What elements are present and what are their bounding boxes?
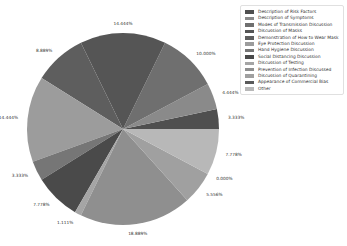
legend-swatch bbox=[245, 55, 254, 59]
legend-swatch bbox=[245, 23, 254, 27]
legend-swatch bbox=[245, 36, 254, 40]
slice-percentage-label: 10.000% bbox=[196, 51, 215, 56]
legend-swatch bbox=[245, 62, 254, 66]
legend-swatch bbox=[245, 87, 254, 91]
legend-item: Other bbox=[245, 86, 339, 92]
slice-percentage-label: 7.778% bbox=[225, 152, 241, 157]
slice-percentage-label: 5.556% bbox=[206, 192, 222, 197]
chart-legend: Description of Risk FactorsDescription o… bbox=[240, 5, 344, 95]
legend-swatch bbox=[245, 68, 254, 72]
legend-swatch bbox=[245, 10, 254, 14]
slice-percentage-label: 14.444% bbox=[0, 115, 18, 120]
slice-percentage-label: 8.889% bbox=[36, 48, 52, 53]
slice-percentage-label: 3.333% bbox=[12, 173, 28, 178]
slice-percentage-label: 3.333% bbox=[228, 115, 244, 120]
legend-swatch bbox=[245, 49, 254, 53]
slice-percentage-label: 7.778% bbox=[33, 202, 49, 207]
legend-swatch bbox=[245, 42, 254, 46]
legend-swatch bbox=[245, 74, 254, 78]
legend-swatch bbox=[245, 17, 254, 21]
slice-percentage-label: 18.889% bbox=[128, 231, 147, 236]
legend-label: Other bbox=[258, 86, 270, 92]
legend-swatch bbox=[245, 30, 254, 34]
legend-rows: Description of Risk FactorsDescription o… bbox=[245, 9, 339, 92]
pie-slices bbox=[27, 33, 219, 225]
slice-percentage-label: 4.444% bbox=[222, 90, 238, 95]
legend-swatch bbox=[245, 81, 254, 85]
slice-percentage-label: 0.000% bbox=[216, 176, 232, 181]
slice-percentage-label: 14.444% bbox=[113, 21, 132, 26]
slice-percentage-label: 1.111% bbox=[57, 220, 73, 225]
